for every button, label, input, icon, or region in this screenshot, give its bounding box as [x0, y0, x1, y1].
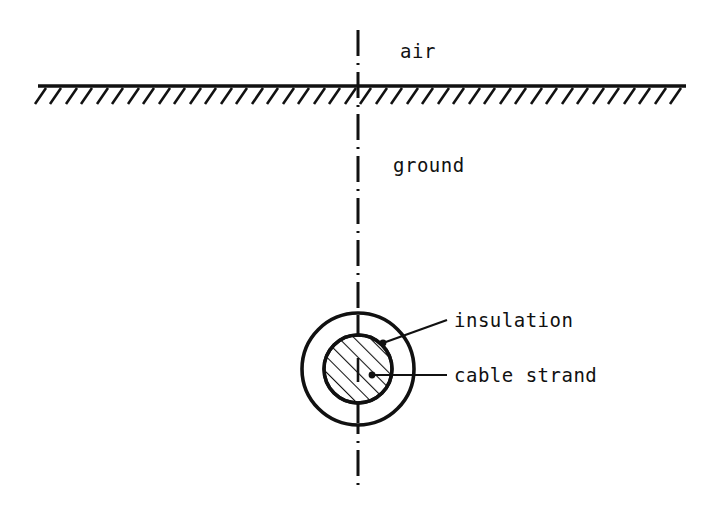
cable-strand-leader-dot — [369, 372, 376, 379]
ground-surface-line — [35, 86, 686, 104]
diagram-canvas: air ground insulation cable strand — [0, 0, 720, 526]
cable-cross-section-group — [302, 313, 414, 425]
label-ground: ground — [393, 154, 465, 176]
label-air: air — [400, 40, 436, 62]
cable-cross-section-diagram: air ground insulation cable strand — [0, 0, 720, 526]
label-cable-strand: cable strand — [454, 364, 597, 386]
label-insulation: insulation — [454, 309, 573, 331]
insulation-leader-dot — [380, 340, 387, 347]
